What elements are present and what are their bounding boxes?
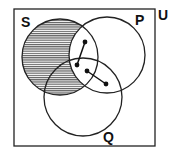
set-q-label: Q: [103, 129, 114, 145]
point-1: [83, 40, 88, 45]
set-s-label: S: [21, 14, 30, 30]
point-3: [85, 69, 90, 74]
point-4: [104, 82, 109, 87]
venn-diagram: S P Q U: [0, 0, 169, 158]
universe-label: U: [158, 7, 168, 23]
set-p-label: P: [135, 12, 144, 28]
point-2: [75, 63, 80, 68]
